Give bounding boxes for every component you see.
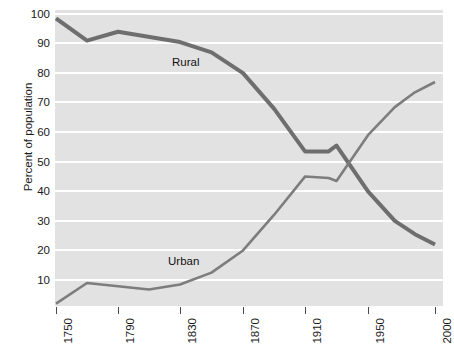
x-tick-label: 1830 [186, 318, 198, 344]
y-axis-tick-labels: 100 90 80 70 60 50 40 30 20 10 [12, 0, 50, 358]
x-tick-label: 1910 [311, 318, 323, 344]
x-tick-mark [180, 307, 181, 314]
gridlines [55, 14, 443, 280]
y-tick-label: 30 [16, 215, 50, 227]
x-tick-label: 1790 [124, 318, 136, 344]
y-tick-label: 100 [16, 8, 50, 20]
chart-figure: Percent of population 100 90 80 70 60 50… [0, 0, 454, 358]
y-tick-label: 40 [16, 185, 50, 197]
y-tick-label: 60 [16, 126, 50, 138]
y-tick-label: 20 [16, 244, 50, 256]
plot-area [55, 10, 443, 306]
x-tick-label: 2000 [441, 318, 453, 344]
y-tick-label: 70 [16, 96, 50, 108]
x-tick-label: 1750 [62, 318, 74, 344]
x-tick-mark [305, 307, 306, 314]
series-canvas [55, 10, 443, 306]
y-tick-label: 80 [16, 67, 50, 79]
y-tick-label: 10 [16, 274, 50, 286]
x-tick-label: 1950 [374, 318, 386, 344]
x-tick-mark [243, 307, 244, 314]
series-label-urban: Urban [168, 255, 199, 267]
x-tick-mark [368, 307, 369, 314]
x-tick-mark [118, 307, 119, 314]
series-line-urban [56, 82, 435, 304]
y-tick-label: 50 [16, 156, 50, 168]
y-tick-label: 90 [16, 37, 50, 49]
x-tick-mark [56, 307, 57, 314]
x-tick-label: 1870 [249, 318, 261, 344]
x-tick-mark [435, 307, 436, 314]
series-label-rural: Rural [172, 56, 199, 68]
